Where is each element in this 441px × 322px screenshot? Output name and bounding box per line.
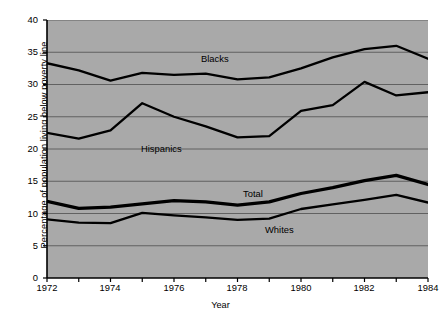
poverty-line-chart-figure: Percentage of population living below po… xyxy=(0,0,441,322)
caption-strip xyxy=(0,314,441,322)
series-line-blacks xyxy=(47,46,428,81)
x-tick-label-1980: 1980 xyxy=(281,283,321,293)
y-tick-label-35: 35 xyxy=(12,47,38,56)
y-tick-label-0: 0 xyxy=(12,273,38,282)
x-tick-label-1976: 1976 xyxy=(154,283,194,293)
y-tick-label-30: 30 xyxy=(12,79,38,88)
series-lines xyxy=(47,46,428,223)
y-tick-label-40: 40 xyxy=(12,15,38,24)
x-tick-label-1982: 1982 xyxy=(344,283,384,293)
y-tick-label-5: 5 xyxy=(12,241,38,250)
x-axis-title: Year xyxy=(0,300,441,310)
x-tick-label-1972: 1972 xyxy=(27,283,67,293)
series-line-whites xyxy=(47,195,428,223)
y-tick-label-25: 25 xyxy=(12,112,38,121)
x-tick-label-1984: 1984 xyxy=(408,283,441,293)
series-label-total: Total xyxy=(243,188,263,199)
series-label-blacks: Blacks xyxy=(201,53,229,64)
y-tick-label-10: 10 xyxy=(12,209,38,218)
y-tick-label-20: 20 xyxy=(12,144,38,153)
series-line-total xyxy=(47,175,428,208)
plot-area: Blacks Hispanics Total Whites xyxy=(47,20,428,278)
x-tick-label-1978: 1978 xyxy=(217,283,257,293)
x-tick-label-1974: 1974 xyxy=(90,283,130,293)
series-label-whites: Whites xyxy=(265,224,294,235)
series-canvas xyxy=(47,20,428,278)
series-line-hispanics xyxy=(47,82,428,139)
y-tick-label-15: 15 xyxy=(12,176,38,185)
series-label-hispanics: Hispanics xyxy=(141,143,182,154)
